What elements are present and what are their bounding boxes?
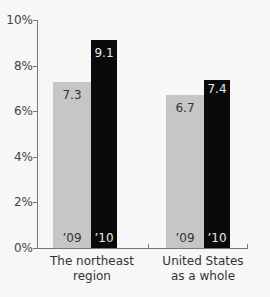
y-label-4: 4%: [0, 151, 33, 163]
y-label-10: 10%: [0, 14, 33, 26]
year-label: ’09: [53, 231, 91, 245]
y-tick: [33, 66, 38, 67]
y-tick: [33, 20, 38, 21]
category-label-us: United States as a whole: [148, 254, 258, 284]
category-line: region: [37, 269, 147, 284]
category-line: The northeast: [37, 254, 147, 269]
y-tick: [33, 111, 38, 112]
y-label-6: 6%: [0, 105, 33, 117]
y-label-8: 8%: [0, 60, 33, 72]
value-label: 7.3: [53, 88, 91, 102]
bar-northeast-09: 7.3 ’09: [53, 82, 91, 248]
y-tick: [33, 202, 38, 203]
category-line: United States: [148, 254, 258, 269]
x-tick: [148, 244, 149, 249]
y-tick: [33, 157, 38, 158]
y-label-0: 0%: [0, 242, 33, 254]
year-label: ’10: [204, 231, 230, 245]
value-label: 7.4: [204, 82, 230, 96]
bar-chart: 0% 2% 4% 6% 8% 10% 7.3 ’09 9.1 ’10 6.7 ’…: [0, 0, 270, 297]
category-label-northeast: The northeast region: [37, 254, 147, 284]
y-tick: [33, 248, 38, 249]
y-label-2: 2%: [0, 196, 33, 208]
bar-us-10: 7.4 ’10: [204, 80, 230, 248]
value-label: 6.7: [166, 101, 204, 115]
year-label: ’10: [91, 231, 117, 245]
value-label: 9.1: [91, 46, 117, 60]
x-tick: [247, 244, 248, 249]
category-line: as a whole: [148, 269, 258, 284]
bar-us-09: 6.7 ’09: [166, 95, 204, 248]
year-label: ’09: [166, 231, 204, 245]
x-axis: [37, 248, 248, 249]
y-axis: [37, 20, 38, 248]
bar-northeast-10: 9.1 ’10: [91, 40, 117, 248]
